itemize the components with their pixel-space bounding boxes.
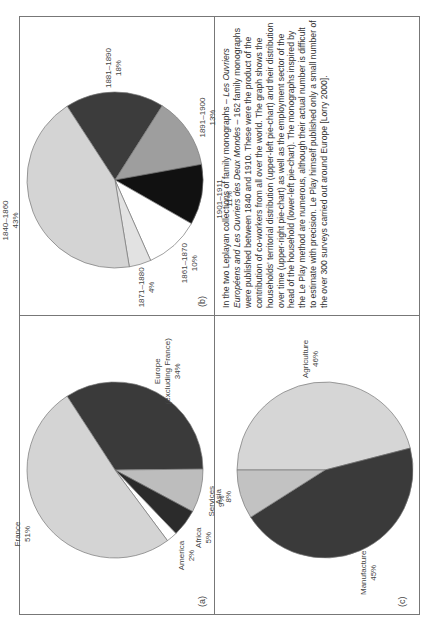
slice-label-value: 51% bbox=[23, 521, 33, 546]
pie-chart-time: (b) 1881–189018%1891–190013%1901–191111%… bbox=[19, 16, 214, 315]
slice-label-name: 1871–1880 bbox=[137, 267, 147, 307]
panel-label-b: (b) bbox=[197, 296, 207, 307]
slice-label-value: 18% bbox=[114, 48, 124, 88]
slice-label-name: 1861–1870 bbox=[180, 243, 190, 283]
slice-label-value: 10% bbox=[190, 243, 200, 283]
slice-label: 1861–187010% bbox=[180, 243, 200, 283]
panel-label-a: (a) bbox=[197, 596, 207, 607]
slice-label: Europe(excluding France)34% bbox=[153, 338, 183, 404]
panel-label-c: (c) bbox=[397, 597, 407, 608]
slice-label-name: 1881–1890 bbox=[104, 48, 114, 88]
figure-page: (a) Europe(excluding France)34%Asia8%Afr… bbox=[19, 16, 420, 615]
slice-label-value: 9% bbox=[217, 486, 227, 517]
slice-label-name: France bbox=[13, 521, 23, 546]
slice-label: Agriculture46% bbox=[301, 340, 321, 378]
pie-chart-employment: (c) Agriculture46%Manufacture45%Services… bbox=[215, 316, 420, 615]
slice-label: Services9% bbox=[207, 486, 227, 517]
slice-label-name: Europe bbox=[153, 338, 163, 404]
slice-label-name: Agriculture bbox=[301, 340, 311, 378]
slice-label-name: (excluding France) bbox=[163, 338, 173, 404]
slice-label: 1891–190013% bbox=[198, 98, 218, 138]
slice-label-value: 5% bbox=[204, 527, 214, 547]
slice-label-value: 4% bbox=[147, 267, 157, 307]
figure-caption: In the two Leplayan collections of famil… bbox=[221, 20, 330, 308]
slice-label-value: 43% bbox=[11, 200, 21, 240]
caption-segment: In the two Leplayan collections of famil… bbox=[221, 97, 231, 308]
slice-label-name: Manufacture bbox=[359, 551, 369, 595]
slice-label: America2% bbox=[177, 541, 197, 570]
slice-label-value: 2% bbox=[187, 541, 197, 570]
slice-label: 1881–189018% bbox=[104, 48, 124, 88]
caption-segment: – 162 family monographs were published b… bbox=[232, 20, 329, 308]
slice-label-name: America bbox=[177, 541, 187, 570]
pie-chart-territorial: (a) Europe(excluding France)34%Asia8%Afr… bbox=[19, 316, 214, 615]
slice-label-value: 34% bbox=[173, 338, 183, 404]
slice-label: 1871–18804% bbox=[137, 267, 157, 307]
slice-label-name: 1891–1900 bbox=[198, 98, 208, 138]
slice-label: Manufacture45% bbox=[359, 551, 379, 595]
slice-label: France51% bbox=[13, 521, 33, 546]
slice-label-value: 46% bbox=[311, 340, 321, 378]
slice-label-value: 13% bbox=[208, 98, 218, 138]
slice-label-value: 45% bbox=[369, 551, 379, 595]
slice-label: 1840–186043% bbox=[1, 200, 21, 240]
slice-label-name: 1840–1860 bbox=[1, 200, 11, 240]
slice-label-name: Services bbox=[207, 486, 217, 517]
